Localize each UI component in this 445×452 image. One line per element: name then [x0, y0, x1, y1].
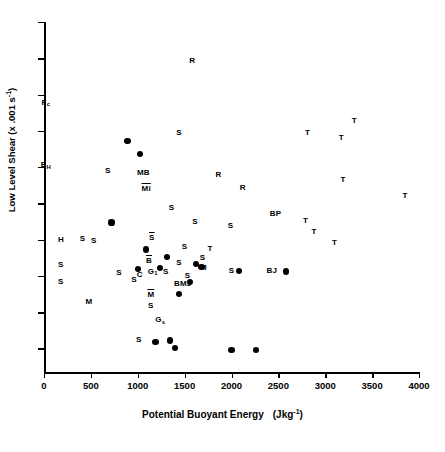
data-point-label: G1: [148, 268, 158, 276]
y-tick: [38, 312, 44, 313]
y-tick: [38, 240, 44, 241]
data-point-label: EH: [41, 161, 51, 169]
data-point-label: S: [131, 276, 137, 284]
x-axis-title: Potential Buoyant Energy(Jkg-1): [0, 408, 445, 420]
data-point-marker: [167, 337, 173, 343]
y-tick: [38, 203, 44, 204]
data-point-label: S: [148, 302, 154, 310]
data-point-label: M: [86, 298, 93, 306]
data-point-marker: [164, 254, 170, 260]
plot-area: 12345678910 0500100015002000250030003500…: [44, 22, 419, 372]
data-point-label: S: [58, 261, 64, 269]
data-point-label: M: [200, 264, 207, 272]
y-axis-title-host: Low Level Shear (x .001 s-1): [12, 0, 28, 352]
data-point-label: MB: [137, 169, 150, 177]
data-point-label: R: [215, 171, 221, 179]
x-tick-label: 4000: [399, 381, 439, 391]
data-point-label: S: [58, 278, 64, 286]
data-point-label: S: [169, 204, 175, 212]
data-point-label: S: [80, 235, 86, 243]
x-tick-label: 3500: [352, 381, 392, 391]
data-point-label: T: [339, 134, 344, 142]
x-tick: [419, 372, 420, 378]
x-tick-label: 2000: [212, 381, 252, 391]
data-point-label: S: [229, 267, 235, 275]
x-tick-label: 0: [24, 381, 64, 391]
x-tick: [138, 372, 139, 378]
data-point-label: T: [352, 117, 357, 125]
data-point-label: S: [91, 237, 97, 245]
data-point-marker: [283, 268, 289, 274]
x-tick-label: 2500: [258, 381, 298, 391]
data-point-marker: [124, 138, 130, 144]
data-point-label: S: [176, 259, 182, 267]
x-tick: [91, 372, 92, 378]
data-point-label: T: [341, 176, 346, 184]
y-tick: [38, 276, 44, 277]
data-point-marker: [152, 339, 158, 345]
data-point-marker: [253, 347, 259, 353]
data-point-marker: [172, 345, 178, 351]
data-point-label: T: [305, 129, 310, 137]
data-point-label: T: [311, 228, 316, 236]
x-tick: [232, 372, 233, 378]
data-point-label: T: [332, 239, 337, 247]
data-point-label: BJ: [266, 267, 277, 275]
data-point-label: S: [200, 254, 206, 262]
data-point-label: T: [303, 217, 308, 225]
x-tick: [372, 372, 373, 378]
data-point-label: S: [136, 336, 142, 344]
data-point-label: BMJ: [174, 280, 192, 288]
x-tick: [185, 372, 186, 378]
data-point-label: T: [207, 245, 212, 253]
x-tick-label: 1000: [118, 381, 158, 391]
y-tick: [38, 348, 44, 349]
y-tick: [38, 131, 44, 132]
data-point-label: H: [58, 236, 64, 244]
data-point-marker: [137, 151, 143, 157]
data-point-label: Fc: [42, 99, 51, 107]
data-point-marker: [108, 219, 114, 225]
data-point-label: M: [147, 291, 154, 299]
y-axis-line: [44, 22, 46, 372]
x-axis-title-main: Potential Buoyant Energy: [142, 409, 264, 420]
y-axis-title: Low Level Shear (x .001 s-1): [5, 88, 17, 213]
y-tick: [38, 95, 44, 96]
data-point-label: S: [182, 243, 188, 251]
x-tick: [278, 372, 279, 378]
data-point-marker: [176, 291, 182, 297]
x-tick-label: 500: [71, 381, 111, 391]
data-point-marker: [228, 347, 234, 353]
x-tick: [44, 372, 45, 378]
scatter-plot-figure: Low Level Shear (x .001 s-1) Potential B…: [0, 0, 445, 452]
data-point-label: T: [402, 192, 407, 200]
data-point-label: R: [189, 57, 195, 65]
data-point-label: C: [137, 271, 143, 279]
x-tick-label: 3000: [305, 381, 345, 391]
data-point-label: S: [192, 218, 198, 226]
data-point-label: S: [228, 222, 234, 230]
data-point-label: Gs: [155, 316, 165, 324]
x-tick-label: 1500: [165, 381, 205, 391]
y-tick: [38, 22, 44, 23]
data-point-marker: [143, 246, 149, 252]
data-point-marker: [236, 268, 242, 274]
data-point-label: B: [146, 257, 152, 265]
data-point-label: Mi: [142, 185, 151, 193]
data-point-label: S: [149, 234, 155, 242]
data-point-label: BP: [270, 210, 282, 218]
data-point-label: S: [163, 268, 169, 276]
data-point-label: R: [240, 184, 246, 192]
x-tick: [325, 372, 326, 378]
data-point-label: S: [105, 167, 111, 175]
data-point-label: S: [116, 269, 122, 277]
y-tick: [38, 58, 44, 59]
data-point-label: S: [176, 129, 182, 137]
